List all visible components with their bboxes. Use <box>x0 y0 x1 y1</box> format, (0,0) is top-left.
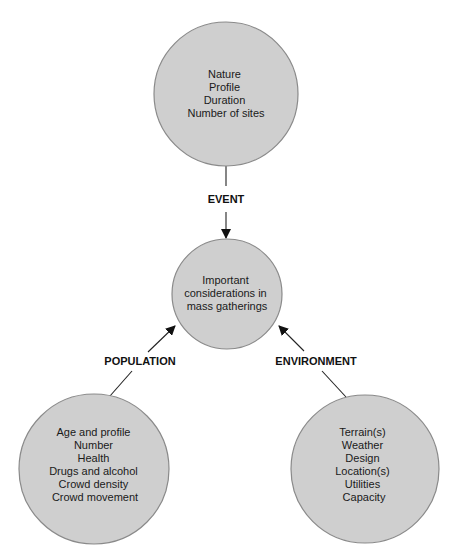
edge-label-population: POPULATION <box>104 355 175 367</box>
node-population-text: Age and profile Number Health Drugs and … <box>49 426 141 503</box>
edge-label-event: EVENT <box>208 193 245 205</box>
node-event: Nature Profile Duration Number of sites <box>154 22 298 166</box>
node-environment: Terrain(s) Weather Design Location(s) Ut… <box>291 395 439 543</box>
edge-label-environment: ENVIRONMENT <box>275 355 357 367</box>
mass-gatherings-diagram: EVENT POPULATION ENVIRONMENT Nature Prof… <box>0 0 458 551</box>
node-center: Important considerations in mass gatheri… <box>172 239 282 349</box>
node-population: Age and profile Number Health Drugs and … <box>19 394 169 544</box>
node-environment-text: Terrain(s) Weather Design Location(s) Ut… <box>335 426 392 503</box>
